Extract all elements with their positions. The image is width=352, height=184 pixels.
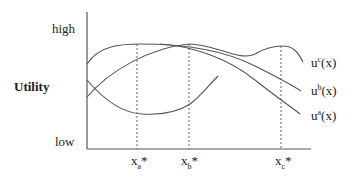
xb-label: xb*	[181, 154, 198, 167]
curve-ua-line	[87, 76, 218, 114]
ua-label: ua(x)	[311, 109, 336, 122]
curve-ua-tail	[160, 44, 300, 114]
low-label: low	[55, 135, 75, 148]
ub-label: ub(x)	[311, 84, 337, 97]
high-label: high	[52, 22, 75, 35]
xc-label: xc*	[275, 154, 292, 167]
uc-label: uc(x)	[311, 56, 336, 69]
xa-label: xa*	[131, 154, 148, 167]
y-axis-label: Utility	[14, 80, 49, 93]
